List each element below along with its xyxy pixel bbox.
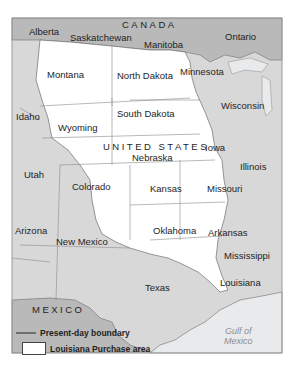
legend-boundary-label: Present-day boundary bbox=[40, 328, 130, 338]
label-montana: Montana bbox=[47, 70, 84, 80]
label-colorado: Colorado bbox=[72, 182, 111, 192]
legend-area: Louisiana Purchase area bbox=[22, 342, 150, 355]
label-kansas: Kansas bbox=[150, 184, 182, 194]
label-north-dakota: North Dakota bbox=[117, 71, 173, 81]
label-new-mexico: New Mexico bbox=[56, 237, 108, 247]
label-mexico: MEXICO bbox=[32, 305, 84, 315]
label-wisconsin: Wisconsin bbox=[221, 101, 264, 111]
label-wyoming: Wyoming bbox=[58, 123, 98, 133]
label-saskatchewan: Saskatchewan bbox=[70, 33, 132, 43]
label-arkansas: Arkansas bbox=[208, 228, 248, 238]
label-manitoba: Manitoba bbox=[144, 40, 183, 50]
label-idaho: Idaho bbox=[16, 112, 40, 122]
louisiana-purchase-map bbox=[0, 0, 295, 375]
label-mississippi: Mississippi bbox=[224, 251, 270, 261]
label-missouri: Missouri bbox=[207, 184, 242, 194]
label-louisiana: Louisiana bbox=[220, 278, 261, 288]
label-canada: CANADA bbox=[122, 20, 177, 30]
label-alberta: Alberta bbox=[29, 27, 59, 37]
label-south-dakota: South Dakota bbox=[117, 109, 175, 119]
label-ontario: Ontario bbox=[225, 32, 256, 42]
label-iowa: Iowa bbox=[205, 143, 225, 153]
legend-boundary: Present-day boundary bbox=[16, 328, 130, 338]
label-nebraska: Nebraska bbox=[132, 153, 173, 163]
label-oklahoma: Oklahoma bbox=[153, 226, 196, 236]
label-arizona: Arizona bbox=[15, 226, 47, 236]
boundary-line-icon bbox=[16, 332, 36, 334]
legend-area-label: Louisiana Purchase area bbox=[50, 344, 150, 354]
label-texas: Texas bbox=[145, 283, 170, 293]
gulf-line-2: Mexico bbox=[224, 337, 253, 347]
label-illinois: Illinois bbox=[240, 162, 266, 172]
white-swatch-icon bbox=[22, 342, 46, 355]
label-minnesota: Minnesota bbox=[180, 67, 224, 77]
label-gulf-of-mexico: Gulf of Mexico bbox=[224, 327, 253, 347]
label-utah: Utah bbox=[24, 170, 44, 180]
label-united-states: UNITED STATES bbox=[103, 142, 209, 152]
